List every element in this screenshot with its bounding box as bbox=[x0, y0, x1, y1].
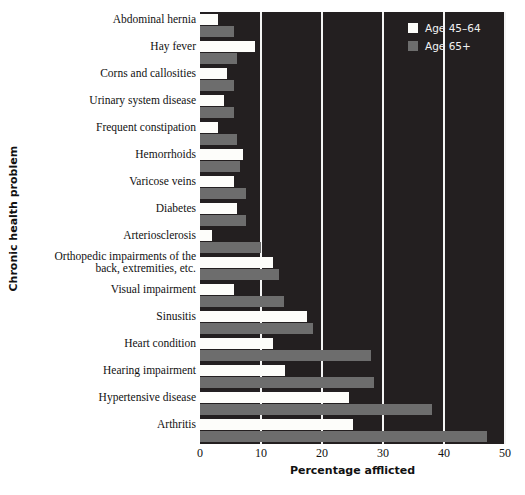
category-label-line: Hay fever bbox=[8, 40, 196, 53]
category-label-line: Hearing impairment bbox=[8, 364, 196, 377]
bar bbox=[200, 203, 237, 214]
category-label: Visual impairment bbox=[8, 283, 196, 296]
category-label-line: Hypertensive disease bbox=[8, 391, 196, 404]
bar bbox=[200, 431, 487, 442]
bar bbox=[200, 41, 255, 52]
bar bbox=[200, 53, 237, 64]
category-label: Arthritis bbox=[8, 418, 196, 431]
category-label-line: Heart condition bbox=[8, 337, 196, 350]
chart-legend: Age 45–64 Age 65+ bbox=[408, 20, 498, 56]
bar bbox=[200, 338, 273, 349]
category-label-line: Varicose veins bbox=[8, 175, 196, 188]
x-axis-title: Percentage afflicted bbox=[200, 464, 505, 477]
bar bbox=[200, 95, 224, 106]
bar bbox=[200, 392, 349, 403]
bar bbox=[200, 215, 246, 226]
bar bbox=[200, 377, 374, 388]
bar bbox=[200, 14, 218, 25]
x-tick-label-0: 0 bbox=[197, 446, 203, 461]
category-label-line: Arthritis bbox=[8, 418, 196, 431]
legend-label-age-45-64: Age 45–64 bbox=[425, 22, 481, 34]
legend-item-age-45-64: Age 45–64 bbox=[408, 20, 498, 36]
category-label-line: back, extremities, etc. bbox=[8, 262, 196, 275]
bar bbox=[200, 242, 261, 253]
category-label-line: Urinary system disease bbox=[8, 94, 196, 107]
bar bbox=[200, 296, 284, 307]
bar bbox=[200, 68, 227, 79]
legend-label-age-65-plus: Age 65+ bbox=[425, 40, 471, 52]
gridline-50 bbox=[504, 12, 506, 444]
bar bbox=[200, 149, 243, 160]
category-label-column: Abdominal herniaHay feverCorns and callo… bbox=[8, 12, 196, 444]
legend-swatch-icon-age-65-plus bbox=[408, 41, 418, 51]
bar bbox=[200, 269, 279, 280]
bar bbox=[200, 365, 285, 376]
category-label-line: Orthopedic impairments of the bbox=[8, 250, 196, 263]
bar bbox=[200, 161, 240, 172]
bar bbox=[200, 311, 307, 322]
bar bbox=[200, 26, 234, 37]
bar bbox=[200, 230, 212, 241]
category-label-line: Arteriosclerosis bbox=[8, 229, 196, 242]
category-label-line: Hemorrhoids bbox=[8, 148, 196, 161]
category-label-line: Visual impairment bbox=[8, 283, 196, 296]
category-label: Urinary system disease bbox=[8, 94, 196, 107]
bar bbox=[200, 419, 353, 430]
category-label: Diabetes bbox=[8, 202, 196, 215]
category-label: Sinusitis bbox=[8, 310, 196, 323]
category-label: Hearing impairment bbox=[8, 364, 196, 377]
x-axis-tick-labels: 01020304050 bbox=[200, 446, 505, 462]
category-label: Corns and callosities bbox=[8, 67, 196, 80]
gridline-30 bbox=[382, 12, 384, 444]
bar bbox=[200, 404, 432, 415]
x-tick-label-50: 50 bbox=[499, 446, 511, 461]
bar bbox=[200, 176, 234, 187]
bar bbox=[200, 284, 234, 295]
category-label: Orthopedic impairments of theback, extre… bbox=[8, 250, 196, 275]
x-tick-label-40: 40 bbox=[438, 446, 450, 461]
bar bbox=[200, 107, 234, 118]
bar bbox=[200, 122, 218, 133]
figure-caption bbox=[8, 487, 517, 495]
x-tick-label-30: 30 bbox=[377, 446, 389, 461]
legend-item-age-65-plus: Age 65+ bbox=[408, 38, 498, 54]
bar bbox=[200, 80, 234, 91]
category-label: Hemorrhoids bbox=[8, 148, 196, 161]
x-tick-label-10: 10 bbox=[255, 446, 267, 461]
category-label: Hypertensive disease bbox=[8, 391, 196, 404]
legend-swatch-icon-age-45-64 bbox=[408, 23, 418, 33]
x-tick-label-20: 20 bbox=[316, 446, 328, 461]
bar bbox=[200, 323, 313, 334]
gridline-40 bbox=[443, 12, 445, 444]
bar bbox=[200, 188, 246, 199]
bar bbox=[200, 350, 371, 361]
category-label-line: Abdominal hernia bbox=[8, 13, 196, 26]
category-label-line: Sinusitis bbox=[8, 310, 196, 323]
category-label-line: Diabetes bbox=[8, 202, 196, 215]
category-label: Varicose veins bbox=[8, 175, 196, 188]
category-label: Frequent constipation bbox=[8, 121, 196, 134]
category-label: Heart condition bbox=[8, 337, 196, 350]
category-label: Hay fever bbox=[8, 40, 196, 53]
category-label: Abdominal hernia bbox=[8, 13, 196, 26]
bar bbox=[200, 134, 237, 145]
bar-chart-figure: Chronic health problem Abdominal herniaH… bbox=[0, 0, 525, 495]
category-label-line: Corns and callosities bbox=[8, 67, 196, 80]
bar bbox=[200, 257, 273, 268]
category-label-line: Frequent constipation bbox=[8, 121, 196, 134]
category-label: Arteriosclerosis bbox=[8, 229, 196, 242]
plot-area: Age 45–64 Age 65+ bbox=[200, 12, 505, 444]
